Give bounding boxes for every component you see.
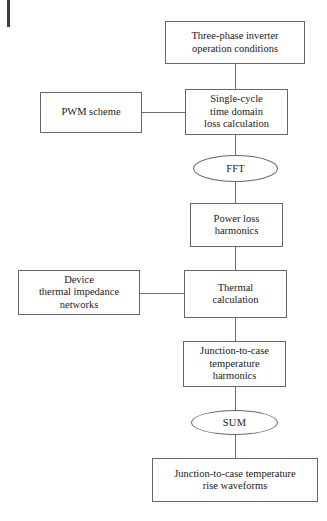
edge-junction-harmonics-to-sum — [235, 387, 236, 411]
node-power-loss-harmonics: Power loss harmonics — [190, 203, 283, 247]
flowchart-canvas: Three-phase inverter operation condition… — [0, 0, 327, 521]
node-power-loss-harmonics-label: Power loss harmonics — [194, 213, 279, 238]
node-thermal-calculation: Thermal calculation — [184, 270, 287, 318]
edge-thermal-to-junction-harmonics — [235, 318, 236, 341]
node-thermal-impedance-networks: Device thermal impedance networks — [18, 270, 140, 315]
edge-networks-to-thermal — [140, 293, 184, 294]
edge-conditions-to-loss — [235, 64, 236, 90]
node-junction-case-rise-waveforms: Junction-to-case temperature rise wavefo… — [152, 458, 318, 502]
node-sum-label: SUM — [223, 417, 246, 428]
node-junction-case-rise-waveforms-label: Junction-to-case temperature rise wavefo… — [156, 468, 314, 493]
node-single-cycle-loss: Single-cycle time domain loss calculatio… — [185, 89, 288, 135]
node-thermal-calculation-label: Thermal calculation — [188, 282, 283, 307]
node-junction-case-harmonics: Junction-to-case temperature harmonics — [183, 341, 286, 387]
node-pwm-scheme-label: PWM scheme — [44, 106, 138, 118]
node-single-cycle-loss-label: Single-cycle time domain loss calculatio… — [189, 93, 284, 130]
node-pwm-scheme: PWM scheme — [40, 92, 142, 133]
node-thermal-impedance-networks-label: Device thermal impedance networks — [22, 274, 136, 311]
node-fft: FFT — [193, 155, 278, 182]
node-inverter-conditions: Three-phase inverter operation condition… — [165, 21, 305, 64]
node-inverter-conditions-label: Three-phase inverter operation condition… — [169, 30, 301, 55]
edge-sum-to-rise-waveforms — [235, 434, 236, 458]
edge-fft-to-power-loss — [235, 181, 236, 204]
edge-loss-to-fft — [235, 135, 236, 156]
node-fft-label: FFT — [226, 163, 245, 174]
edge-pwm-to-loss — [142, 112, 186, 113]
page-edge-artifact — [7, 0, 10, 27]
node-junction-case-harmonics-label: Junction-to-case temperature harmonics — [187, 345, 282, 382]
edge-power-loss-to-thermal — [235, 247, 236, 271]
node-sum: SUM — [191, 410, 278, 435]
